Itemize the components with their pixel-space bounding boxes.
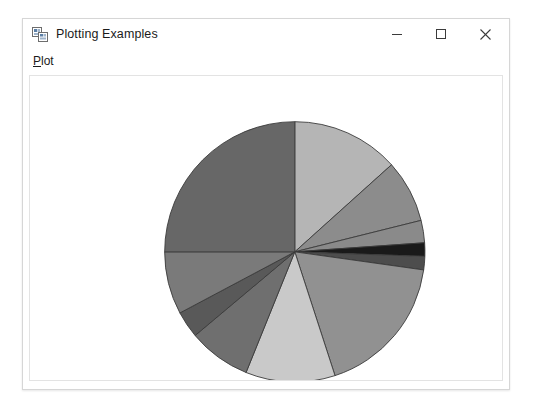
chart-panel[interactable]	[29, 75, 503, 381]
pie-slice[interactable]	[165, 122, 295, 252]
pie-chart[interactable]	[30, 76, 502, 380]
pie-slice-group	[165, 122, 425, 380]
menu-item-plot[interactable]: Plot	[23, 52, 61, 70]
menu-bar: Plot	[23, 49, 509, 72]
minimize-button[interactable]	[375, 20, 419, 49]
menu-item-plot-mnemonic: P	[33, 54, 41, 68]
title-bar[interactable]: Plotting Examples	[23, 19, 509, 49]
menu-item-plot-label: lot	[41, 54, 54, 68]
window-title: Plotting Examples	[56, 27, 375, 41]
windows-forms-app-icon	[32, 27, 48, 42]
application-window: Plotting Examples Plot	[22, 18, 510, 390]
maximize-button[interactable]	[419, 20, 463, 49]
close-button[interactable]	[463, 20, 507, 49]
